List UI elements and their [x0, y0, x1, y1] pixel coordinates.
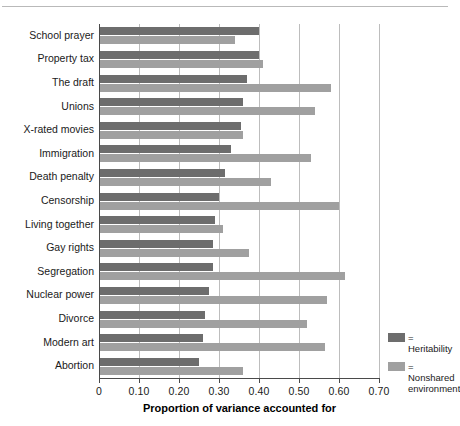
- x-axis-tick: [299, 379, 300, 383]
- category-label: Death penalty: [0, 170, 94, 182]
- bar-nonshared: [99, 154, 311, 162]
- legend-label: = Heritability: [408, 332, 460, 354]
- bar-heritability: [99, 169, 225, 177]
- bar-heritability: [99, 27, 259, 35]
- category-label: Immigration: [0, 147, 94, 159]
- bar-heritability: [99, 122, 241, 130]
- bar-nonshared: [99, 225, 223, 233]
- category-label: Abortion: [0, 359, 94, 371]
- category-label: Unions: [0, 100, 94, 112]
- bar-heritability: [99, 287, 209, 295]
- bar-heritability: [99, 263, 213, 271]
- bar-heritability: [99, 75, 247, 83]
- category-label: X-rated movies: [0, 123, 94, 135]
- bar-heritability: [99, 98, 243, 106]
- category-label: Censorship: [0, 194, 94, 206]
- x-axis-tick: [219, 379, 220, 383]
- bar-nonshared: [99, 107, 315, 115]
- gridline: [339, 24, 340, 378]
- top-divider: [2, 6, 448, 7]
- category-label: Gay rights: [0, 241, 94, 253]
- legend-label: = Nonshared environment: [408, 361, 460, 394]
- category-label: Segregation: [0, 265, 94, 277]
- x-axis-line: [99, 378, 380, 379]
- legend-item: = Heritability: [388, 332, 460, 354]
- x-axis-tick: [339, 379, 340, 383]
- x-axis-tick: [259, 379, 260, 383]
- category-label: Divorce: [0, 312, 94, 324]
- x-axis-tick: [139, 379, 140, 383]
- legend-item: = Nonshared environment: [388, 361, 460, 394]
- category-label: Property tax: [0, 52, 94, 64]
- category-label: Modern art: [0, 336, 94, 348]
- bar-heritability: [99, 145, 231, 153]
- bar-heritability: [99, 358, 199, 366]
- bar-heritability: [99, 216, 215, 224]
- bar-nonshared: [99, 36, 235, 44]
- plot-area: [99, 24, 379, 378]
- bar-heritability: [99, 240, 213, 248]
- category-label: Living together: [0, 218, 94, 230]
- bar-heritability: [99, 193, 219, 201]
- bar-nonshared: [99, 343, 325, 351]
- y-axis-line: [99, 24, 100, 379]
- category-label: The draft: [0, 76, 94, 88]
- bar-nonshared: [99, 60, 263, 68]
- bar-nonshared: [99, 131, 243, 139]
- gridline: [379, 24, 380, 378]
- bar-nonshared: [99, 178, 271, 186]
- bar-nonshared: [99, 202, 339, 210]
- category-label: Nuclear power: [0, 288, 94, 300]
- legend-swatch-icon: [388, 333, 405, 342]
- bar-nonshared: [99, 296, 327, 304]
- bar-heritability: [99, 51, 259, 59]
- legend-swatch-icon: [388, 362, 405, 371]
- category-label: School prayer: [0, 29, 94, 41]
- bar-heritability: [99, 311, 205, 319]
- chart-legend: = Heritability= Nonshared environment: [388, 332, 460, 401]
- bar-nonshared: [99, 367, 243, 375]
- bar-nonshared: [99, 249, 249, 257]
- bar-nonshared: [99, 272, 345, 280]
- x-axis-tick: [379, 379, 380, 383]
- bar-heritability: [99, 334, 203, 342]
- x-axis-tick: [179, 379, 180, 383]
- bar-nonshared: [99, 84, 331, 92]
- x-axis-tick: [99, 379, 100, 383]
- bar-nonshared: [99, 320, 307, 328]
- x-axis-title: Proportion of variance accounted for: [99, 402, 380, 414]
